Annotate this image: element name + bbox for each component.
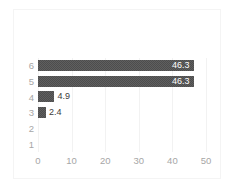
x-axis-tick-label: 40 bbox=[167, 155, 178, 166]
bar-chart: 46.346.34.92.4 654321 01020304050 bbox=[0, 0, 231, 188]
y-axis-tick-label: 5 bbox=[16, 75, 34, 88]
bar-row: 4.9 bbox=[38, 89, 206, 105]
bar-row bbox=[38, 121, 206, 137]
y-axis-tick-label: 2 bbox=[16, 122, 34, 135]
bar-value-label: 4.9 bbox=[57, 90, 70, 103]
y-axis-tick-label: 6 bbox=[16, 59, 34, 72]
x-axis-tick-label: 20 bbox=[100, 155, 111, 166]
x-axis-tick-label: 10 bbox=[66, 155, 77, 166]
x-axis-ticks: 01020304050 bbox=[38, 155, 206, 171]
bar-value-label: 2.4 bbox=[49, 106, 62, 119]
y-axis-tick-label: 4 bbox=[16, 91, 34, 104]
bar-value-label: 46.3 bbox=[38, 59, 190, 72]
bar-row bbox=[38, 136, 206, 152]
bar bbox=[38, 91, 54, 102]
plot-area: 46.346.34.92.4 bbox=[38, 58, 206, 152]
y-axis-ticks: 654321 bbox=[14, 58, 34, 152]
bar-row: 46.3 bbox=[38, 74, 206, 90]
x-axis-tick-label: 30 bbox=[134, 155, 145, 166]
bar-row: 46.3 bbox=[38, 58, 206, 74]
y-axis-tick-label: 3 bbox=[16, 106, 34, 119]
y-axis-tick-label: 1 bbox=[16, 138, 34, 151]
bar bbox=[38, 107, 46, 118]
x-axis-tick-label: 0 bbox=[35, 155, 40, 166]
gridline bbox=[206, 58, 207, 152]
x-axis-tick-label: 50 bbox=[201, 155, 212, 166]
bar-row: 2.4 bbox=[38, 105, 206, 121]
bar-value-label: 46.3 bbox=[38, 75, 190, 88]
